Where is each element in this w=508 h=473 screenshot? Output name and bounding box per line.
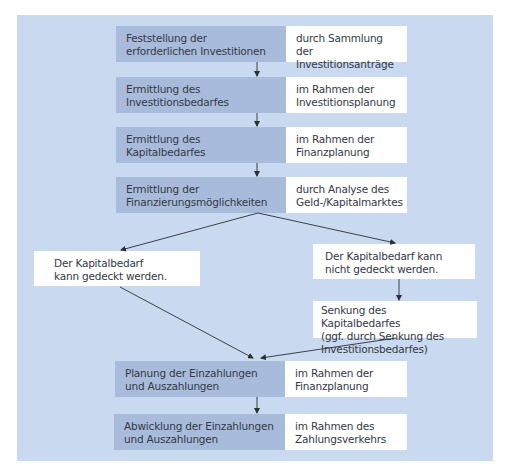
arrow-4-right: [258, 213, 395, 243]
arrow-4-left: [121, 213, 258, 250]
connector-arrows: [0, 0, 508, 473]
arrow-action-to-5: [261, 338, 396, 358]
arrow-left-to-5: [120, 287, 253, 358]
